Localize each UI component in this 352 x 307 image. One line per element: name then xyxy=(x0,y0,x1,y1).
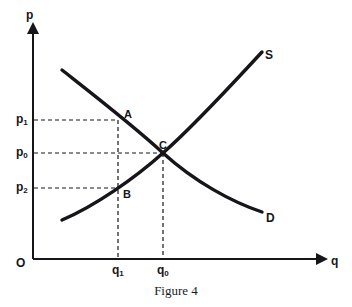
price-tick-p0: p0 xyxy=(16,146,28,158)
origin-label: O xyxy=(16,257,25,269)
quantity-tick-q1: q1 xyxy=(112,264,124,276)
point-label-a: A xyxy=(124,109,132,120)
quantity-tick-q0: q0 xyxy=(157,264,169,276)
figure-caption: Figure 4 xyxy=(0,283,352,299)
x-axis-label: q xyxy=(331,255,338,267)
supply-demand-plot xyxy=(0,0,352,307)
supply-curve xyxy=(62,52,262,220)
price-tick-p1: p1 xyxy=(16,113,28,125)
price-tick-p2-sub: 2 xyxy=(23,186,27,195)
supply-curve-label: S xyxy=(265,49,273,61)
price-tick-p0-sub: 0 xyxy=(23,151,27,160)
quantity-tick-q1-sub: 1 xyxy=(119,269,123,278)
point-label-c: C xyxy=(159,140,167,151)
point-label-b: B xyxy=(123,189,131,200)
quantity-tick-q0-sub: 0 xyxy=(164,269,168,278)
y-axis-label: p xyxy=(26,9,33,21)
price-tick-p1-sub: 1 xyxy=(23,118,27,127)
demand-curve-label: D xyxy=(266,212,275,224)
price-tick-p2: p2 xyxy=(16,181,28,193)
figure-container: p q O p1 p0 p2 q1 q0 S D A B C Figure 4 xyxy=(0,0,352,307)
